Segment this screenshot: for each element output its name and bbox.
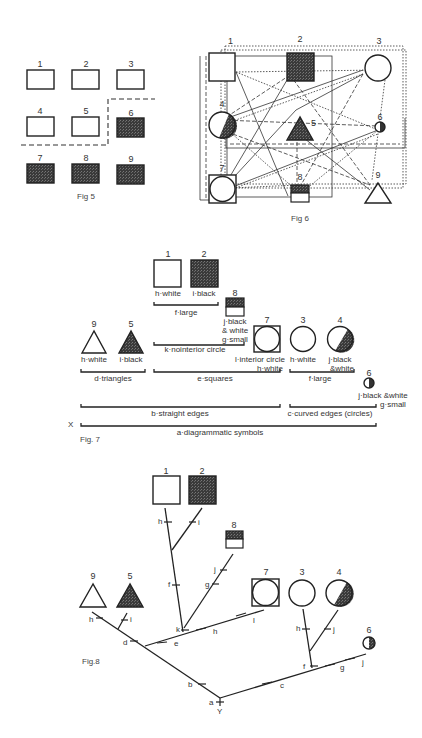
fig8-label-d: d (123, 638, 127, 647)
fig7-bracket-label-f-large-circles: f·large (309, 374, 332, 383)
fig5-num-5: 5 (83, 106, 88, 116)
fig8-label-f: f (168, 580, 171, 589)
fig6-node-8 (291, 185, 309, 202)
fig8-edge-5 (118, 613, 127, 629)
fig7-label-8-line1: j·black (222, 317, 247, 326)
fig5-num-8: 8 (83, 153, 88, 163)
fig8-symbol-7-circle (253, 580, 279, 606)
fig8-symbol-5 (117, 584, 143, 607)
fig7-num-8: 8 (232, 288, 237, 298)
fig7-num-1: 1 (165, 249, 170, 259)
fig6-num-5: 5 (311, 118, 316, 128)
fig6-node-5 (287, 117, 313, 140)
fig7-symbol-3 (291, 327, 316, 352)
fig6-node-2 (287, 53, 314, 81)
fig5-num-7: 7 (37, 153, 42, 163)
fig7-label-1: h·white (155, 289, 181, 298)
fig7-label-6-line1: j·black &white (357, 391, 408, 400)
fig7-symbol-8-top (226, 298, 244, 307)
fig7-num-4: 4 (337, 315, 342, 325)
fig8-symbol-9 (80, 584, 106, 607)
fig7-num-3: 3 (300, 315, 305, 325)
fig8-label-i5: i (130, 615, 132, 624)
fig7-bracket-label-b: b·straight edges (151, 409, 208, 418)
fig7-bracket-label-e: e·squares (197, 374, 233, 383)
fig8-num-1: 1 (163, 466, 168, 476)
fig7-label-9: h·white (81, 355, 107, 364)
fig7-bracket-f-large-squares (154, 302, 218, 305)
fig7-symbol-5 (119, 331, 143, 353)
fig8-label-k: k (176, 625, 181, 634)
fig8-symbol-3 (289, 580, 315, 606)
fig5-num-1: 1 (37, 59, 42, 69)
fig7-num-9: 9 (91, 319, 96, 329)
fig7-bracket-label-a: a·diagrammatic symbols (177, 428, 264, 437)
fig7-bracket-c (290, 404, 376, 407)
fig5-caption: Fig 5 (77, 192, 95, 201)
fig7-label-3: h·white (290, 355, 316, 364)
fig7-num-7: 7 (264, 315, 269, 325)
fig8-num-2: 2 (199, 466, 204, 476)
fig8-label-e: e (174, 639, 179, 648)
fig7-symbol-1 (154, 260, 181, 287)
fig7-num-5: 5 (128, 319, 133, 329)
fig6-edge-7-8 (230, 185, 300, 188)
fig5-num-4: 4 (37, 106, 42, 116)
fig8-ticks (96, 522, 355, 706)
fig6-edge-8-6 (305, 130, 378, 190)
fig7-bracket-d (81, 369, 145, 372)
fig5-box-5 (72, 117, 99, 136)
fig6-node-1 (209, 53, 235, 81)
fig5-box-6 (117, 118, 144, 137)
fig6-node-7 (209, 175, 236, 203)
fig6: 1 2 3 4 5 6 7 8 9 Fi (200, 34, 406, 223)
fig7-label-5: i·black (119, 355, 143, 364)
figure-canvas: 1 2 3 4 5 6 7 8 9 Fig 5 (0, 0, 422, 738)
fig6-num-4: 4 (219, 99, 224, 109)
fig6-num-9: 9 (375, 170, 380, 180)
fig7-caption: Fig. 7 (80, 435, 101, 444)
fig5-box-4 (27, 117, 54, 136)
fig5-box-3 (117, 70, 144, 89)
fig8-label-j6: j (361, 658, 364, 667)
fig8-label-f2: f (303, 662, 306, 671)
fig8-symbol-6 (363, 637, 375, 649)
fig7-symbol-6 (364, 378, 374, 388)
fig7-bracket-label-d: d·triangles (94, 374, 131, 383)
fig8-edge-9-root (92, 612, 220, 698)
fig7-symbol-4 (328, 327, 355, 353)
fig7-bracket-label-k: k·nointerior circle (165, 345, 226, 354)
fig6-num-7: 7 (219, 163, 224, 173)
fig8-label-g6: g (340, 663, 344, 672)
fig8-num-7: 7 (263, 567, 268, 577)
fig6-num-6: 6 (377, 112, 382, 122)
fig6-num-1: 1 (228, 36, 233, 46)
fig7-label-6-line2: g·small (380, 400, 406, 409)
fig8-edge-8 (184, 554, 233, 628)
fig5-num-3: 3 (128, 59, 133, 69)
fig7-num-6: 6 (366, 368, 371, 378)
fig6-caption: Fig 6 (291, 214, 309, 223)
fig8-symbol-4 (326, 580, 354, 607)
fig7-x-mark: X (68, 420, 74, 429)
fig8-label-h3: h (296, 624, 300, 633)
fig6-edge-7-6b (230, 134, 378, 190)
fig8-edge-circles (220, 654, 366, 698)
fig7: 1 h·white 2 i·black f·large 8 j·black & … (68, 249, 408, 444)
fig8-num-3: 3 (299, 567, 304, 577)
fig8-symbol-8-top (226, 531, 243, 539)
fig7-bracket-label-f-large-squares: f·large (175, 308, 198, 317)
fig8-edge-3 (303, 609, 312, 668)
fig8-num-8: 8 (231, 520, 236, 530)
fig7-label-4-line1: j·black (327, 355, 352, 364)
fig6-num-8: 8 (297, 172, 302, 182)
fig8-label-Y: Y (217, 707, 223, 716)
fig7-symbol-9 (82, 331, 106, 353)
fig6-edge-5-9 (300, 135, 370, 190)
fig8-num-5: 5 (127, 571, 132, 581)
fig6-num-3: 3 (376, 36, 381, 46)
fig8-symbol-1 (153, 476, 180, 504)
fig7-label-7-line1: l·interior circle (235, 355, 285, 364)
fig5-num-2: 2 (83, 59, 88, 69)
fig5: 1 2 3 4 5 6 7 8 9 Fig 5 (21, 59, 155, 201)
